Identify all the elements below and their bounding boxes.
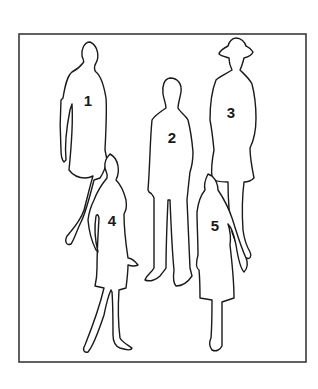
figure-label-1: 1 bbox=[84, 93, 92, 108]
silhouettes-drawing bbox=[0, 0, 318, 389]
figure-diagram: 1 2 3 4 5 bbox=[0, 0, 318, 389]
figure-label-2: 2 bbox=[168, 130, 176, 145]
figure-label-4: 4 bbox=[108, 213, 116, 228]
figure-label-5: 5 bbox=[211, 218, 219, 233]
figure-label-3: 3 bbox=[227, 105, 235, 120]
figure-2-silhouette bbox=[145, 78, 193, 286]
